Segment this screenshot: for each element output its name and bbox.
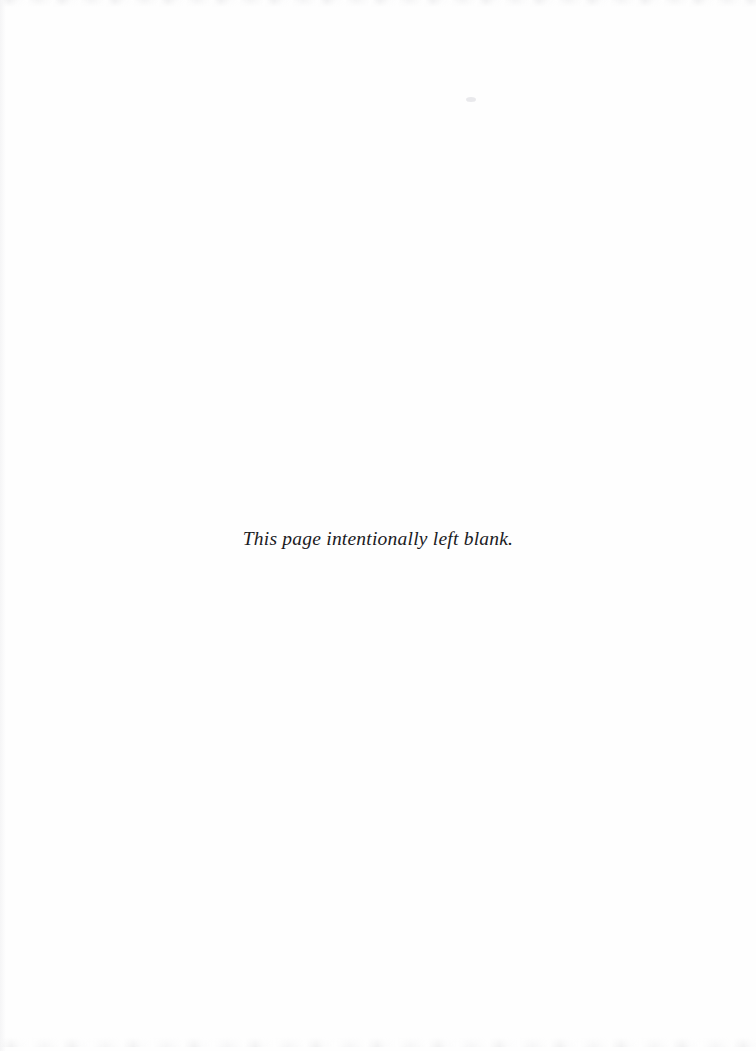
page-intentionally-left-blank-notice: This page intentionally left blank. (0, 527, 756, 551)
scan-noise-band-bottom-artifact (0, 1037, 756, 1047)
scan-noise-band-top-artifact (0, 0, 756, 7)
scan-edge-shadow-left-artifact (0, 0, 6, 1051)
scanned-page: This page intentionally left blank. (0, 0, 756, 1051)
scan-speck-artifact (466, 97, 476, 102)
